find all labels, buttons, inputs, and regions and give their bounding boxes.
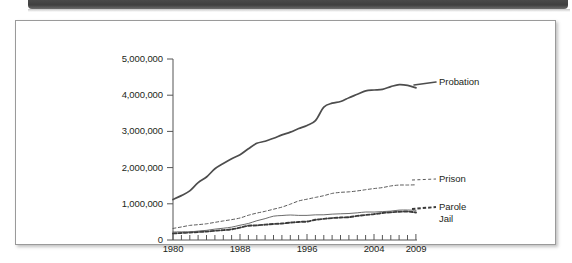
x-tick-label-1996: 1996 — [285, 244, 329, 254]
y-tick-label-4000000: 4,000,000 — [95, 90, 163, 100]
y-axis-ticks — [167, 59, 173, 240]
page-header-band — [28, 0, 568, 9]
x-tick-label-1988: 1988 — [218, 244, 262, 254]
x-tick-label-2009: 2009 — [394, 244, 438, 254]
x-axis-minor-ticks — [173, 234, 416, 240]
series-label-prison: Prison — [439, 173, 466, 184]
series-label-jail: Jail — [439, 213, 453, 224]
y-tick-label-2000000: 2,000,000 — [95, 163, 163, 173]
series-label-probation: Probation — [439, 76, 479, 87]
page-header-band-shadow — [28, 9, 570, 12]
legend-stub-probation — [414, 82, 436, 85]
y-tick-label-1000000: 1,000,000 — [95, 199, 163, 209]
y-tick-label-5000000: 5,000,000 — [95, 54, 163, 64]
series-label-parole: Parole — [439, 201, 466, 212]
series-path-probation — [173, 85, 416, 200]
line-chart-plot: 5,000,000 4,000,000 3,000,000 2,000,000 … — [16, 21, 557, 246]
x-tick-label-1980: 1980 — [151, 244, 195, 254]
x-tick-label-2004: 2004 — [352, 244, 396, 254]
y-tick-label-3000000: 3,000,000 — [95, 126, 163, 136]
chart-frame: 5,000,000 4,000,000 3,000,000 2,000,000 … — [15, 20, 556, 245]
legend-stub-prison — [412, 179, 436, 180]
legend-stub-parole — [412, 207, 436, 209]
